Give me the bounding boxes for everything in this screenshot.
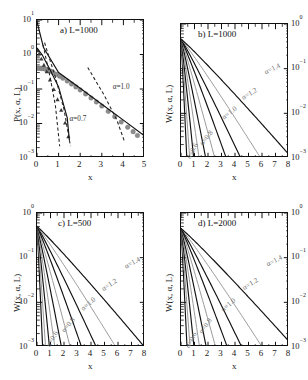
x-tick-label: 2	[205, 160, 210, 169]
x-tick-label: 7	[128, 349, 133, 358]
panel-d-title: d) L=2000	[198, 218, 236, 228]
x-tick-label: 0	[34, 160, 39, 169]
x-tick-label: 7	[272, 160, 277, 169]
y-tick-label: 100	[16, 49, 34, 58]
x-tick-label: 1	[191, 160, 196, 169]
x-tick-label: 3	[218, 160, 223, 169]
panel-c-canvas	[37, 213, 143, 345]
x-tick-label: 2	[77, 160, 82, 169]
y-tick-label: 10−1	[16, 84, 34, 93]
alpha-annotation: α=1.0	[113, 83, 130, 91]
y-tick-label: 10−3	[291, 153, 306, 162]
x-tick-label: 6	[259, 349, 264, 358]
panel-b-plot-frame	[180, 23, 288, 157]
x-tick-label: 1	[55, 160, 60, 169]
x-tick-label: 5	[101, 349, 106, 358]
y-tick-label: 10−1	[291, 63, 306, 72]
x-tick-label: 5	[142, 160, 147, 169]
x-tick-label: 4	[232, 160, 237, 169]
x-tick-label: 5	[245, 160, 250, 169]
x-tick-label: 4	[88, 349, 93, 358]
x-tick-label: 1	[47, 349, 52, 358]
x-tick-label: 8	[286, 349, 291, 358]
panel-b: W(x, α, L) x b) L=1000 10010−110−210−3 0…	[154, 0, 308, 190]
panel-b-y-axis-label: W(x, α, L)	[164, 85, 174, 123]
x-tick-label: 2	[205, 349, 210, 358]
panel-a-title: a) L=1000	[60, 25, 98, 35]
panel-c-plot-frame	[36, 212, 144, 346]
panel-d: W(x, α, L) x d) L=2000 10010−110−210−3 0…	[154, 190, 308, 380]
y-tick-label: 100	[16, 208, 34, 217]
y-tick-label: 10−3	[16, 153, 34, 162]
y-tick-label: 101	[16, 15, 34, 24]
x-tick-label: 4	[232, 349, 237, 358]
y-tick-label: 10−1	[291, 252, 306, 261]
y-tick-label: 10−2	[291, 108, 306, 117]
x-tick-label: 6	[259, 160, 264, 169]
x-tick-label: 3	[99, 160, 104, 169]
alpha-annotation: α=0.7	[69, 115, 86, 123]
y-tick-label: 10−1	[16, 252, 34, 261]
x-tick-label: 2	[61, 349, 66, 358]
x-tick-label: 0	[178, 349, 183, 358]
x-tick-label: 5	[245, 349, 250, 358]
y-tick-label: 10−2	[291, 297, 306, 306]
panel-d-plot-frame	[180, 212, 288, 346]
panel-b-title: b) L=1000	[198, 29, 236, 39]
x-tick-label: 1	[191, 349, 196, 358]
x-tick-label: 3	[74, 349, 79, 358]
y-tick-label: 10−3	[291, 342, 306, 351]
panel-c-title: c) L=500	[58, 218, 91, 228]
panel-b-canvas	[181, 24, 287, 156]
x-tick-label: 7	[272, 349, 277, 358]
x-tick-label: 6	[115, 349, 120, 358]
panel-c-y-axis-label: W(x, α, L)	[12, 274, 22, 312]
y-tick-label: 100	[291, 208, 303, 217]
panel-a: P(x, α, L) x a) L=1000 10110010−110−210−…	[0, 0, 154, 190]
x-tick-label: 0	[34, 349, 39, 358]
panel-a-x-axis-label: x	[88, 173, 93, 182]
panel-d-canvas	[181, 213, 287, 345]
x-tick-label: 8	[142, 349, 147, 358]
x-tick-label: 4	[120, 160, 125, 169]
y-tick-label: 10−3	[16, 342, 34, 351]
y-tick-label: 10−2	[16, 118, 34, 127]
y-tick-label: 100	[291, 19, 303, 28]
panel-d-y-axis-label: W(x, α, L)	[164, 274, 174, 312]
panel-d-x-axis-label: x	[232, 362, 237, 371]
y-tick-label: 10−2	[16, 297, 34, 306]
x-tick-label: 0	[178, 160, 183, 169]
panel-c-x-axis-label: x	[88, 362, 93, 371]
x-tick-label: 8	[286, 160, 291, 169]
x-tick-label: 3	[218, 349, 223, 358]
figure-root: P(x, α, L) x a) L=1000 10110010−110−210−…	[0, 0, 308, 380]
panel-c: W(x, α, L) x c) L=500 10010−110−210−3 01…	[0, 190, 154, 380]
panel-b-x-axis-label: x	[232, 173, 237, 182]
